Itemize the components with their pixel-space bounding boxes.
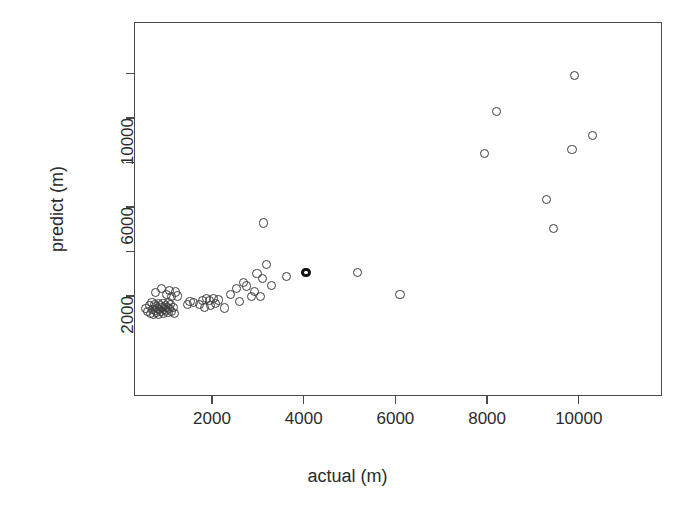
x-axis-tick-label: 2000 xyxy=(193,409,231,429)
y-axis-tick-label: 6000 xyxy=(118,207,138,245)
x-axis-tick xyxy=(303,396,304,404)
y-axis-tick-label: 2000 xyxy=(118,296,138,334)
x-axis-tick-label: 10000 xyxy=(555,409,602,429)
x-axis-tick-label: 6000 xyxy=(376,409,414,429)
x-axis-tick xyxy=(395,396,396,404)
scatter-plot-figure: 2000400060008000100002000600010000 actua… xyxy=(0,0,695,510)
plot-frame xyxy=(134,22,662,396)
y-axis-tick-label: 10000 xyxy=(118,118,138,165)
x-axis-tick xyxy=(486,396,487,404)
x-axis-tick-label: 4000 xyxy=(285,409,323,429)
x-axis-tick xyxy=(211,396,212,404)
y-axis-title: predict (m) xyxy=(47,166,68,252)
x-axis-tick xyxy=(578,396,579,404)
x-axis-title: actual (m) xyxy=(0,466,695,487)
y-axis-tick xyxy=(126,73,134,74)
x-axis-tick-label: 8000 xyxy=(468,409,506,429)
y-axis-tick xyxy=(126,251,134,252)
